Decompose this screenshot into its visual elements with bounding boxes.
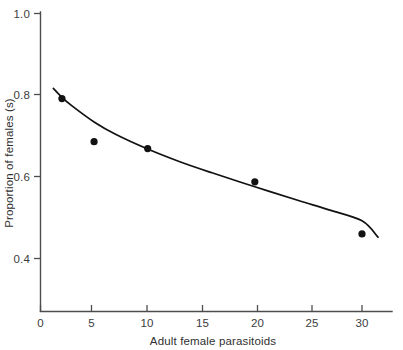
- y-tick-label-0.6: 0.6: [13, 171, 30, 183]
- figure-container: 1.0 0.8 0.6 0.4 0 5 10 15 20 25 30 Adult…: [0, 0, 403, 350]
- y-axis-ticks: [34, 14, 41, 259]
- x-tick-label-10: 10: [140, 317, 153, 329]
- x-tick-label-0: 0: [37, 317, 44, 329]
- data-point: [251, 178, 258, 185]
- data-point: [90, 138, 97, 145]
- x-tick-label-20: 20: [251, 317, 264, 329]
- x-tick-label-25: 25: [305, 317, 318, 329]
- data-point: [144, 145, 151, 152]
- data-point: [58, 95, 65, 102]
- fitted-curve: [53, 88, 378, 237]
- y-tick-label-0.8: 0.8: [13, 89, 30, 101]
- y-tick-label-0.4: 0.4: [13, 253, 30, 265]
- y-axis-title: Proportion of females (s): [3, 98, 15, 228]
- x-axis-title: Adult female parasitoids: [150, 335, 276, 347]
- scatter-plot: 1.0 0.8 0.6 0.4 0 5 10 15 20 25 30 Adult…: [0, 0, 403, 350]
- x-tick-label-15: 15: [196, 317, 209, 329]
- x-axis-ticks: [41, 305, 363, 312]
- y-tick-label-1.0: 1.0: [13, 8, 30, 20]
- x-tick-label-30: 30: [355, 317, 368, 329]
- data-point: [358, 230, 365, 237]
- data-points-group: [58, 95, 365, 237]
- x-tick-label-5: 5: [88, 317, 95, 329]
